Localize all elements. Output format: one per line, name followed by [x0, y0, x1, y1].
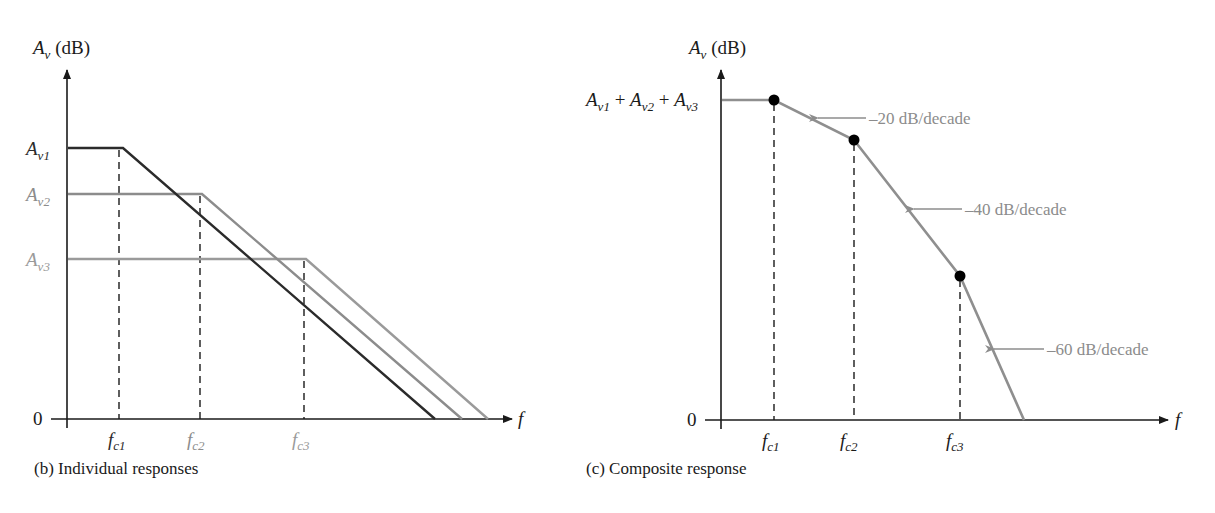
response-stage-2	[68, 194, 462, 419]
slope-annotation-40: –40 dB/decade	[914, 200, 1067, 219]
y-axis-label: Av (dB)	[687, 37, 746, 62]
slope-annotation-60: –60 dB/decade	[994, 340, 1149, 359]
level-label-av1: Av1	[24, 138, 50, 163]
caption-individual: (b) Individual responses	[34, 459, 198, 478]
breakpoint-fc2	[849, 135, 860, 146]
freq-label-fc2: fc2	[840, 430, 858, 454]
slope-annotation-20: –20 dB/decade	[818, 109, 971, 128]
panel-individual-responses: Av (dB) f 0 Av1 Av2 Av3 fc1 fc2	[24, 37, 526, 478]
composite-response-curve	[722, 100, 1024, 420]
panel-composite-response: Av (dB) f 0 Av1 + Av2 + Av3 –20 dB/decad…	[584, 37, 1183, 478]
level-label-av2: Av2	[24, 184, 50, 209]
level-label-av3: Av3	[24, 249, 50, 274]
freq-label-fc2: fc2	[187, 429, 205, 453]
bode-figure: Av (dB) f 0 Av1 Av2 Av3 fc1 fc2	[0, 0, 1215, 513]
response-stage-1	[68, 148, 435, 419]
freq-label-fc3: fc3	[946, 430, 964, 454]
breakpoint-fc3	[955, 271, 966, 282]
freq-label-fc1: fc1	[762, 430, 780, 454]
svg-text:–60 dB/decade: –60 dB/decade	[1046, 340, 1149, 359]
svg-text:–20 dB/decade: –20 dB/decade	[868, 109, 971, 128]
zero-label: 0	[33, 408, 43, 429]
svg-text:–40 dB/decade: –40 dB/decade	[964, 200, 1067, 219]
x-axis-label: f	[1175, 409, 1183, 430]
level-label-sum: Av1 + Av2 + Av3	[584, 89, 699, 114]
caption-composite: (c) Composite response	[586, 459, 747, 478]
freq-label-fc3: fc3	[292, 429, 310, 453]
freq-label-fc1: fc1	[108, 429, 126, 453]
breakpoint-fc1	[769, 95, 780, 106]
zero-label: 0	[687, 409, 697, 430]
x-axis-label: f	[518, 408, 526, 429]
y-axis-label: Av (dB)	[31, 37, 90, 62]
